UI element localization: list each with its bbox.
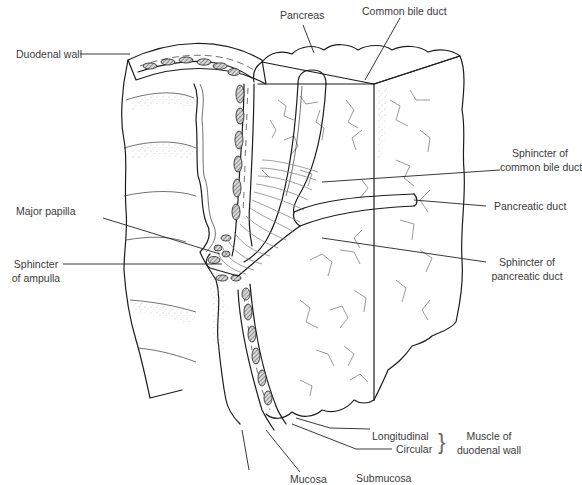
- label-sphincter-of-common-bile-duct: Sphincter of common bile duct: [500, 146, 580, 174]
- label-longitudinal: Longitudinal: [372, 429, 429, 443]
- label-sphincter-pd-line1: Sphincter of: [486, 255, 568, 269]
- label-sphincter-of-pancreatic-duct: Sphincter of pancreatic duct: [486, 255, 568, 283]
- pancreas-lobules: [262, 90, 432, 396]
- label-circular: Circular: [396, 442, 432, 456]
- label-sphincter-ampulla-line1: Sphincter: [8, 257, 64, 271]
- label-sphincter-of-ampulla: Sphincter of ampulla: [8, 257, 64, 285]
- label-submucosa: Submucosa: [356, 471, 411, 485]
- pancreatic-duct: [238, 194, 417, 276]
- label-pancreas: Pancreas: [280, 8, 324, 22]
- brace: }: [438, 429, 445, 455]
- label-mucosa: Mucosa: [290, 472, 327, 485]
- label-sphincter-cbd-line2: common bile duct: [500, 160, 580, 174]
- pancreas-block: [253, 45, 464, 419]
- label-common-bile-duct: Common bile duct: [362, 4, 447, 18]
- leader-lines: [63, 18, 500, 472]
- hatched-bundles: [143, 57, 272, 405]
- common-bile-duct: [244, 70, 326, 262]
- duodenal-wall-layers: [138, 55, 286, 430]
- label-muscle-line1: Muscle of: [447, 429, 531, 443]
- label-sphincter-pd-line2: pancreatic duct: [486, 269, 568, 283]
- label-major-papilla: Major papilla: [16, 204, 76, 218]
- duodenum: [122, 43, 266, 424]
- label-sphincter-ampulla-line2: of ampulla: [8, 271, 64, 285]
- label-muscle-of-duodenal-wall: Muscle of duodenal wall: [447, 429, 531, 457]
- label-sphincter-cbd-line1: Sphincter of: [500, 146, 580, 160]
- label-pancreatic-duct: Pancreatic duct: [494, 199, 566, 213]
- label-duodenal-wall: Duodenal wall: [16, 47, 82, 61]
- label-muscle-line2: duodenal wall: [447, 443, 531, 457]
